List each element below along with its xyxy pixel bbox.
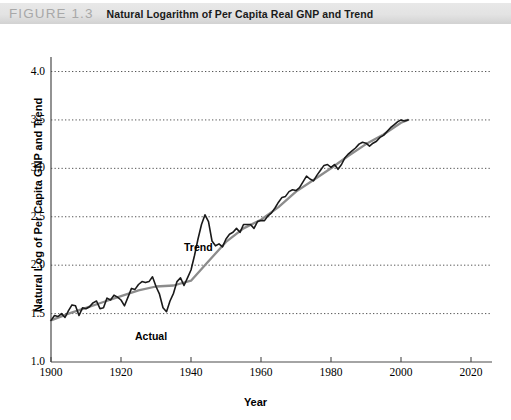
x-tick-label: 2020 [451, 366, 491, 378]
x-tick-label: 1920 [101, 366, 141, 378]
series-trend [51, 120, 408, 321]
figure-title: Natural Logarithm of Per Capita Real GNP… [107, 8, 374, 20]
x-tick-label: 1900 [31, 366, 71, 378]
figure-number: FIGURE 1.3 [9, 6, 94, 21]
x-tick-label: 1960 [241, 366, 281, 378]
y-axis-title: Natural Log of Per Capita GNP and Trend [32, 75, 44, 335]
actual-line-path [51, 120, 408, 321]
x-tick-marks-group [51, 357, 471, 362]
annotation-trend-label: Trend [184, 241, 213, 253]
axes-group [51, 57, 492, 362]
chart-container: 1.01.52.02.53.03.54.0 190019201940196019… [0, 24, 511, 420]
gridlines-group [51, 72, 492, 314]
x-tick-label: 1980 [311, 366, 351, 378]
x-tick-label: 2000 [381, 366, 421, 378]
series-actual [51, 120, 408, 321]
x-tick-label: 1940 [171, 366, 211, 378]
figure-header-bar: FIGURE 1.3 Natural Logarithm of Per Capi… [0, 3, 511, 24]
trend-line-path [51, 120, 408, 321]
chart-plot-svg [0, 24, 511, 420]
annotation-actual-label: Actual [135, 330, 167, 342]
x-axis-title: Year [0, 396, 511, 408]
